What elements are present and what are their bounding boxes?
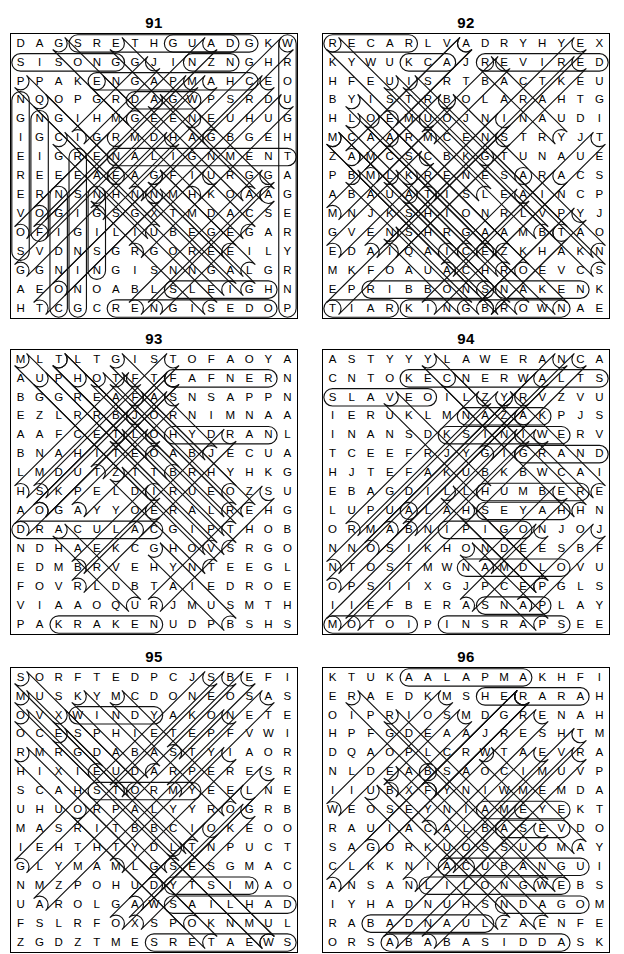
grid-cell: C xyxy=(456,857,475,876)
grid-cell: S xyxy=(476,933,495,952)
grid-cell: B xyxy=(495,857,514,876)
grid-cell: Z xyxy=(106,464,125,483)
grid-cell: N xyxy=(87,185,106,204)
grid-cell: N xyxy=(183,407,202,426)
grid-cell: L xyxy=(68,350,87,369)
grid-cell: P xyxy=(342,280,361,299)
grid-cell: U xyxy=(361,782,380,801)
grid-row: NNOSIKHONDEESBF xyxy=(323,539,609,558)
grid-cell: D xyxy=(125,706,144,725)
grid-cell: R xyxy=(87,34,106,53)
grid-row: ASTYYYLAWERANCA xyxy=(323,350,609,369)
grid-row: IYHADNUHSNDAGOM xyxy=(323,895,609,914)
grid-cell: N xyxy=(456,280,475,299)
grid-cell: X xyxy=(399,782,418,801)
grid-cell: I xyxy=(399,706,418,725)
grid-cell: O xyxy=(125,782,144,801)
grid-row: HIXIEUDARPERESR xyxy=(11,763,297,782)
grid-cell: E xyxy=(533,261,552,280)
grid-cell: L xyxy=(49,407,68,426)
grid-cell: V xyxy=(11,596,30,615)
grid-cell: H xyxy=(164,539,183,558)
grid-cell: G xyxy=(240,53,259,72)
grid-cell: E xyxy=(590,482,609,501)
grid-cell: I xyxy=(221,876,240,895)
grid-cell: E xyxy=(221,223,240,242)
grid-cell: I xyxy=(183,166,202,185)
grid-cell: J xyxy=(456,53,475,72)
grid-cell: N xyxy=(456,782,475,801)
grid-cell: L xyxy=(87,577,106,596)
grid-cell: E xyxy=(125,299,144,318)
grid-cell: E xyxy=(590,615,609,634)
grid-cell: A xyxy=(533,687,552,706)
grid-cell: O xyxy=(259,744,278,763)
grid-cell: M xyxy=(399,110,418,129)
grid-cell: A xyxy=(30,426,49,445)
grid-cell: O xyxy=(106,914,125,933)
grid-cell: Y xyxy=(164,558,183,577)
grid-cell: O xyxy=(590,819,609,838)
grid-cell: S xyxy=(495,129,514,148)
grid-cell: N xyxy=(106,706,125,725)
grid-cell: G xyxy=(49,204,68,223)
grid-cell: T xyxy=(571,725,590,744)
grid-cell: R xyxy=(495,204,514,223)
grid-cell: A xyxy=(571,838,590,857)
grid-cell: H xyxy=(87,838,106,857)
letter-grid-table: MLTLTGISTOFAOYAAUPHOTFTFAFNERNBGGREAFASN… xyxy=(11,350,297,634)
grid-cell: I xyxy=(418,299,437,318)
grid-cell: I xyxy=(49,223,68,242)
puzzle-number: 96 xyxy=(322,648,610,666)
grid-cell: V xyxy=(380,388,399,407)
grid-cell: D xyxy=(571,782,590,801)
grid-cell: R xyxy=(240,91,259,110)
grid-cell: E xyxy=(202,687,221,706)
grid-cell: H xyxy=(590,687,609,706)
grid-cell: S xyxy=(68,34,87,53)
grid-cell: M xyxy=(240,914,259,933)
grid-cell: T xyxy=(361,350,380,369)
grid-cell: N xyxy=(514,110,533,129)
grid-cell: A xyxy=(278,407,297,426)
grid-cell: O xyxy=(278,539,297,558)
puzzle-94: 94ASTYYYLAWERANCACNTOKECNERWALTSSLAVEOIL… xyxy=(322,330,610,635)
grid-cell: R xyxy=(418,91,437,110)
grid-cell: J xyxy=(590,204,609,223)
grid-cell: R xyxy=(571,744,590,763)
grid-cell: O xyxy=(30,668,49,687)
grid-cell: U xyxy=(202,596,221,615)
grid-cell: A xyxy=(164,577,183,596)
grid-cell: Z xyxy=(202,53,221,72)
grid-row: RABADNAULZAENFE xyxy=(323,914,609,933)
grid-cell: G xyxy=(514,876,533,895)
grid-cell: A xyxy=(125,520,144,539)
grid-cell: R xyxy=(456,744,475,763)
grid-cell: E xyxy=(11,185,30,204)
grid-cell: T xyxy=(323,445,342,464)
grid-cell: L xyxy=(476,914,495,933)
grid-cell: K xyxy=(590,280,609,299)
grid-cell: U xyxy=(476,857,495,876)
grid-cell: P xyxy=(476,668,495,687)
grid-cell: I xyxy=(68,763,87,782)
grid-cell: E xyxy=(323,280,342,299)
grid-cell: G xyxy=(106,895,125,914)
grid-row: SISONGGJINZNGHR xyxy=(11,53,297,72)
grid-row: TIARKINGBROWNAE xyxy=(323,299,609,318)
grid-cell: U xyxy=(202,166,221,185)
grid-cell: D xyxy=(125,91,144,110)
grid-cell: I xyxy=(437,185,456,204)
grid-cell: P xyxy=(342,725,361,744)
grid-cell: M xyxy=(495,558,514,577)
grid-cell: E xyxy=(514,725,533,744)
grid-cell: A xyxy=(552,148,571,167)
grid-cell: A xyxy=(342,914,361,933)
grid-cell: K xyxy=(202,914,221,933)
grid-cell: H xyxy=(11,763,30,782)
grid-cell: A xyxy=(323,350,342,369)
grid-cell: E xyxy=(533,706,552,725)
grid-cell: T xyxy=(202,558,221,577)
grid-cell: L xyxy=(106,482,125,501)
grid-cell: Z xyxy=(30,407,49,426)
